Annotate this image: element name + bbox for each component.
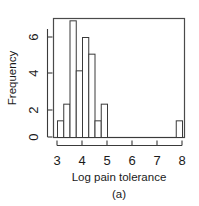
y-tick-label-0: 0 [26,133,41,140]
x-tick-label-3: 3 [53,153,60,168]
x-tick-label-5: 5 [103,153,110,168]
x-tick-label-7: 7 [153,153,160,168]
x-tick-label-6: 6 [128,153,135,168]
histogram-bars [58,21,183,138]
histogram-bar [64,104,70,137]
x-axis: 3 4 5 6 7 8 [53,141,185,169]
y-tick-label-2: 2 [26,106,41,113]
histogram-bar [83,38,89,138]
histogram-bar [89,54,95,137]
x-tick-label-4: 4 [78,153,85,168]
panel-caption: (a) [112,188,126,200]
histogram-bar [58,121,64,138]
x-axis-title: Log pain tolerance [72,171,167,183]
y-tick-label-6: 6 [26,33,41,40]
y-axis: 0 2 4 6 [26,29,53,141]
x-tick-label-8: 8 [178,153,185,168]
y-tick-label-4: 4 [26,69,41,76]
histogram-bar [176,121,182,138]
histogram-bar [76,71,82,138]
histogram-bar [101,104,107,137]
y-axis-title: Frequency [6,51,18,106]
histogram-bar [95,121,101,138]
histogram-svg: 0 2 4 6 Frequency 3 4 5 6 7 8 Log pain t… [0,0,199,206]
histogram-figure: 0 2 4 6 Frequency 3 4 5 6 7 8 Log pain t… [0,0,199,206]
histogram-bar [70,21,76,138]
